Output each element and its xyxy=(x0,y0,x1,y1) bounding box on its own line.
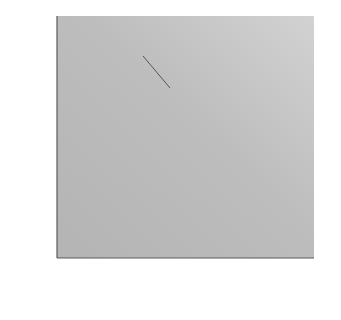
energy-use-per-capita-chart xyxy=(0,0,341,320)
plot-area xyxy=(57,16,314,258)
chart-canvas xyxy=(0,0,341,320)
